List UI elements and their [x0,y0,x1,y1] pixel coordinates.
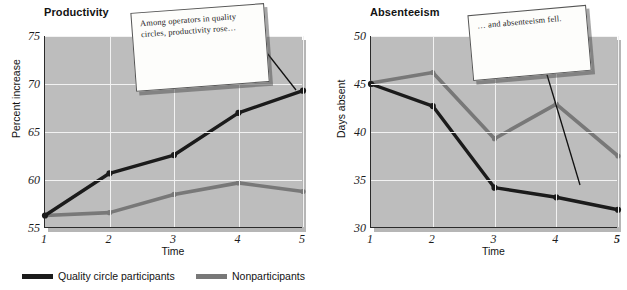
data-point-marker [42,212,48,218]
legend-item-quality-circle-participants[interactable]: Quality circle participants [22,270,175,282]
legend-label: Quality circle participants [58,270,175,282]
y-tick-label: 60 [14,173,40,188]
y-tick-label: 35 [340,173,366,188]
callout-absenteeism-note: … and absenteeism fell. [467,5,589,79]
chart-title-productivity: Productivity [44,6,109,18]
callout-productivity-note: Among operators in quality circles, prod… [130,3,267,89]
y-tick-label: 70 [14,77,40,92]
chart-legend: Quality circle participants Nonparticipa… [0,268,627,288]
line-swatch-icon [196,274,227,279]
y-tick-label: 75 [14,29,40,44]
gridline-vertical [110,36,111,227]
x-axis-label-absenteeism: Time [370,245,617,257]
dual-line-chart-figure: Productivity Percent increase 5560657075… [0,0,627,290]
legend-item-nonparticipants[interactable]: Nonparticipants [196,270,305,282]
x-axis-label-productivity: Time [44,245,302,257]
y-tick-label: 45 [340,77,366,92]
legend-label: Nonparticipants [232,270,305,282]
y-tick-label: 50 [340,29,366,44]
y-tick-label: 65 [14,125,40,140]
y-tick-label: 40 [340,125,366,140]
line-swatch-icon [22,274,53,279]
chart-title-absenteeism: Absenteeism [370,6,440,18]
gridline-vertical [433,36,434,227]
